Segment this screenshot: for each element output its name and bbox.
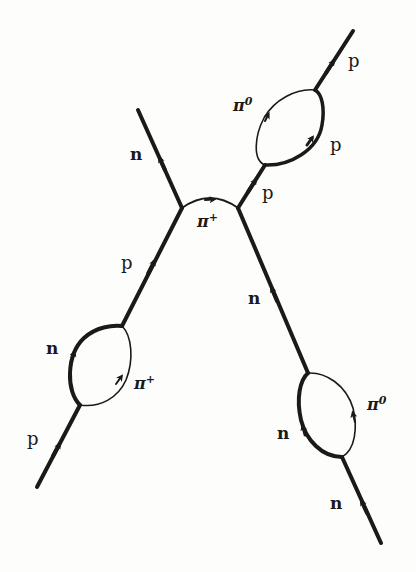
pi-symbol: π xyxy=(367,395,379,414)
line-right-upper-p xyxy=(238,165,265,208)
charge-superscript: 0 xyxy=(245,95,253,108)
diagram-canvas xyxy=(0,0,416,572)
label-bottom-left-p: p xyxy=(27,430,39,448)
charge-superscript: + xyxy=(209,211,218,224)
charge-superscript: 0 xyxy=(379,394,387,407)
pi-symbol: π xyxy=(134,374,146,393)
label-right-mid-n: n xyxy=(248,290,260,307)
label-bottom-right-n: n xyxy=(330,495,342,512)
label-top-loop-pi: π0 xyxy=(233,98,252,114)
label-top-loop-p: p xyxy=(330,136,342,154)
label-right-upper-p: p xyxy=(262,184,274,202)
label-exchange-pi: π+ xyxy=(197,214,218,230)
exchange-pi-plus xyxy=(182,198,238,208)
line-bottom-right-n xyxy=(342,457,381,543)
feynman-diagram: n π+ p n π+ p p π0 p p n n π0 n xyxy=(0,0,416,572)
loop-lower-left xyxy=(70,326,131,406)
line-bottom-left-p xyxy=(37,405,80,487)
label-right-loop-n: n xyxy=(277,425,289,442)
label-left-loop-pi: π+ xyxy=(134,376,155,392)
label-left-mid-p: p xyxy=(121,254,133,272)
label-left-loop-n: n xyxy=(46,340,58,357)
pi-symbol: π xyxy=(233,96,245,115)
label-right-loop-pi: π0 xyxy=(367,397,386,413)
label-top-left-n: n xyxy=(130,146,142,163)
loop-lower-right xyxy=(299,373,355,457)
pi-symbol: π xyxy=(197,212,209,231)
loop-upper-right xyxy=(256,90,323,165)
line-top-left-n xyxy=(138,110,182,208)
label-top-right-p: p xyxy=(348,52,360,70)
charge-superscript: + xyxy=(146,373,155,386)
